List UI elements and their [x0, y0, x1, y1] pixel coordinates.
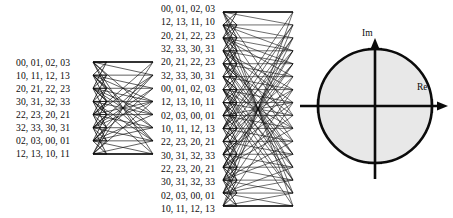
list-item: 20, 21, 22, 23	[16, 82, 94, 95]
network-edge	[93, 115, 153, 128]
right-butterfly-network	[222, 8, 294, 210]
imaginary-axis-arrowhead	[371, 38, 380, 49]
list-item: 10, 11, 12, 13	[16, 69, 94, 82]
list-item: 30, 31, 32, 33	[16, 95, 94, 108]
list-item: 12, 13, 10, 11	[16, 147, 94, 160]
real-axis-arrowhead	[437, 102, 448, 111]
imaginary-axis-label: Im	[362, 28, 373, 38]
network-edge	[93, 62, 153, 75]
left-stage-label-column: 00, 01, 02, 03 10, 11, 12, 13 20, 21, 22…	[16, 56, 94, 160]
network-edge	[93, 75, 153, 114]
list-item: 00, 01, 02, 03	[16, 56, 94, 69]
list-item: 02, 03, 00, 01	[16, 134, 94, 147]
network-edge	[93, 75, 153, 88]
list-item: 32, 33, 30, 31	[16, 121, 94, 134]
real-axis-label: Re	[417, 82, 428, 92]
figure-canvas: 00, 01, 02, 03 10, 11, 12, 13 20, 21, 22…	[0, 0, 453, 218]
complex-plane-diagram	[296, 24, 453, 189]
left-butterfly-network	[92, 58, 154, 158]
list-item: 22, 23, 20, 21	[16, 108, 94, 121]
